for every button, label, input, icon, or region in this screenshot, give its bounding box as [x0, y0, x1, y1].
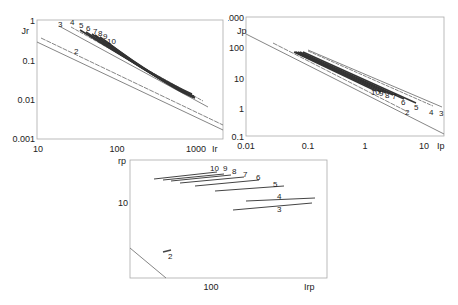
curve-label: 10 — [107, 37, 116, 46]
curve-label: 6 — [86, 24, 91, 33]
series-2 — [41, 38, 223, 125]
y-axis-label: Jrp — [118, 156, 126, 166]
series-3 — [308, 50, 442, 107]
series-reference — [130, 248, 166, 278]
chart-jp-vs-ip: 1000 100 10 1 0.1 0.01 0.1 1 10 Ip Jp 10… — [228, 0, 458, 152]
curve-label: 7 — [243, 170, 248, 179]
curve-label: 5 — [79, 21, 84, 30]
x-tick: 100 — [203, 282, 218, 292]
y-tick: 0.01 — [17, 95, 35, 105]
curve-label: 9 — [223, 164, 228, 173]
y-tick: 1 — [239, 104, 244, 114]
curve-label: 8 — [232, 167, 237, 176]
curve-label: 4 — [277, 192, 282, 201]
curve-label: 2 — [405, 108, 410, 117]
curve-label: 2 — [168, 252, 173, 261]
series-reference — [37, 42, 223, 130]
plot-frame — [37, 20, 223, 139]
curve-label: 6 — [401, 98, 406, 107]
curve-label: 8 — [385, 91, 390, 100]
y-tick: 100 — [229, 43, 244, 53]
curve-label: 4 — [70, 18, 75, 27]
x-tick: 1 — [362, 141, 367, 151]
x-tick: 10 — [419, 141, 429, 151]
chart-jrp-vs-irp-svg: 10 Jrp 100 Irp 10 9 8 7 6 5 4 3 2 — [118, 150, 340, 305]
series-3 — [59, 26, 208, 107]
y-tick: 0.1 — [22, 56, 35, 66]
plot-frame — [130, 160, 327, 278]
series-4 — [308, 51, 433, 106]
curve-label: 3 — [58, 20, 63, 29]
y-tick: 10 — [234, 74, 244, 84]
curve-label: 5 — [414, 103, 419, 112]
series-3 — [233, 203, 312, 210]
series-2 — [273, 43, 408, 112]
y-tick: 0.001 — [12, 134, 35, 144]
curve-label: 5 — [273, 180, 278, 189]
y-axis-label: Jp — [237, 26, 247, 36]
curve-label: 10 — [210, 164, 219, 173]
series-5 — [303, 52, 416, 103]
curve-label: 7 — [392, 92, 397, 101]
y-tick: 1 — [30, 16, 35, 26]
chart-jp-vs-ip-svg: 1000 100 10 1 0.1 0.01 0.1 1 10 Ip Jp 10… — [228, 0, 458, 152]
x-axis-label: Ip — [437, 141, 445, 151]
y-tick: 10 — [118, 198, 128, 208]
curve-label: 9 — [379, 89, 384, 98]
y-tick: 1000 — [228, 13, 244, 23]
series-10 — [294, 52, 376, 91]
chart-jrp-vs-irp: 10 Jrp 100 Irp 10 9 8 7 6 5 4 3 2 — [118, 150, 340, 305]
curve-label: 4 — [429, 108, 434, 117]
x-axis-label: Irp — [304, 282, 315, 292]
curve-label: 3 — [439, 109, 444, 118]
curve-label: 2 — [74, 47, 79, 56]
chart-jr-vs-ir: 1 0.1 0.01 0.001 10 100 1000 Ir Jr 2 3 4… — [0, 0, 230, 152]
series-reference — [246, 34, 444, 134]
curve-label: 3 — [277, 205, 282, 214]
curve-label: 6 — [256, 173, 261, 182]
chart-jr-vs-ir-svg: 1 0.1 0.01 0.001 10 100 1000 Ir Jr 2 3 4… — [0, 0, 230, 152]
y-axis-label: Jr — [22, 26, 30, 36]
x-tick: 10 — [33, 144, 43, 152]
